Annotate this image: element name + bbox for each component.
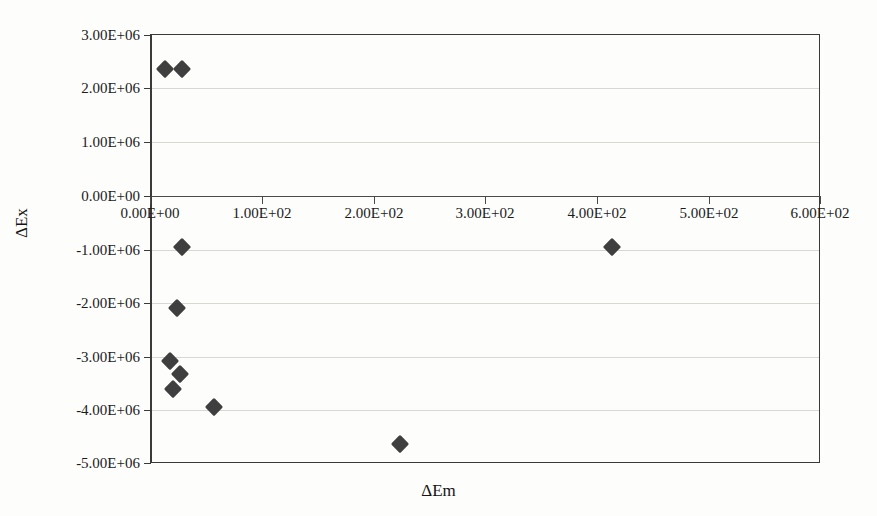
y-tick-label-2e6: 2.00E+06	[24, 80, 140, 97]
y-tick-label-3e6: 3.00E+06	[24, 27, 140, 44]
y-tick-label-m5e6: -5.00E+06	[24, 455, 140, 472]
y-tick-label-m1e6: -1.00E+06	[24, 242, 140, 259]
x-tick-200	[374, 197, 375, 204]
y-tick-1e6	[144, 142, 151, 143]
y-tick-m3e6	[144, 357, 151, 358]
y-tick-2e6	[144, 88, 151, 89]
plot-area	[150, 34, 820, 463]
x-tick-600	[820, 197, 821, 204]
y-tick-m1e6	[144, 250, 151, 251]
x-tick-label-200: 2.00E+02	[319, 205, 429, 222]
x-tick-label-0: 0.00E+00	[95, 205, 205, 222]
y-tick-3e6	[144, 35, 151, 36]
y-tick-label-m4e6: -4.00E+06	[24, 402, 140, 419]
y-tick-m5e6	[144, 463, 151, 464]
x-tick-label-400: 4.00E+02	[542, 205, 652, 222]
x-tick-100	[262, 197, 263, 204]
y-tick-label-0: 0.00E+00	[24, 188, 140, 205]
x-tick-label-100: 1.00E+02	[207, 205, 317, 222]
x-tick-0	[150, 197, 151, 204]
y-tick-label-m2e6: -2.00E+06	[24, 295, 140, 312]
scatter-chart-figure: 3.00E+06 2.00E+06 1.00E+06 0.00E+00 -1.0…	[0, 0, 877, 516]
x-tick-400	[597, 197, 598, 204]
y-tick-m2e6	[144, 303, 151, 304]
x-axis-title: ΔEm	[0, 481, 877, 501]
y-tick-label-m3e6: -3.00E+06	[24, 349, 140, 366]
x-tick-label-600: 6.00E+02	[765, 205, 875, 222]
x-tick-500	[709, 197, 710, 204]
y-tick-label-1e6: 1.00E+06	[24, 134, 140, 151]
y-axis-title: ΔEx	[12, 208, 32, 238]
x-tick-label-300: 3.00E+02	[430, 205, 540, 222]
x-tick-300	[485, 197, 486, 204]
y-tick-m4e6	[144, 410, 151, 411]
x-tick-label-500: 5.00E+02	[654, 205, 764, 222]
